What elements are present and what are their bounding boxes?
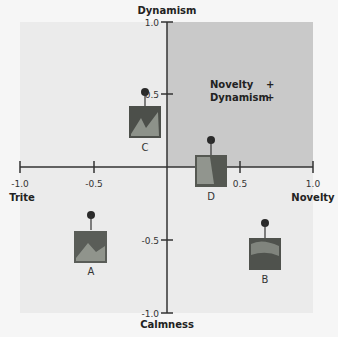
svg-text:+: + — [266, 79, 274, 90]
point-label: D — [207, 191, 215, 202]
x-tick-label: 1.0 — [306, 179, 321, 189]
y-axis-bottom-label: Calmness — [140, 319, 194, 330]
quadrant-scatter-chart: -1.0 -0.5 0.5 1.0 1.0 0.5 -0.5 -1.0 Dyna… — [0, 0, 338, 337]
svg-text:+: + — [266, 92, 274, 103]
point-label: B — [262, 274, 269, 285]
y-axis-top-label: Dynamism — [138, 5, 197, 16]
x-tick-label: 0.5 — [233, 179, 247, 189]
x-tick-label: -0.5 — [85, 179, 103, 189]
point-label: C — [142, 142, 149, 153]
y-tick-label: -0.5 — [141, 236, 159, 246]
svg-text:Novelty: Novelty — [210, 79, 254, 90]
point-label: A — [88, 266, 95, 277]
x-axis-left-label: Trite — [9, 192, 35, 203]
x-tick-label: -1.0 — [11, 179, 29, 189]
x-axis-right-label: Novelty — [291, 192, 335, 203]
svg-text:Dynamism: Dynamism — [210, 92, 269, 103]
y-tick-label: -1.0 — [141, 309, 159, 319]
y-tick-label: 1.0 — [145, 18, 160, 28]
